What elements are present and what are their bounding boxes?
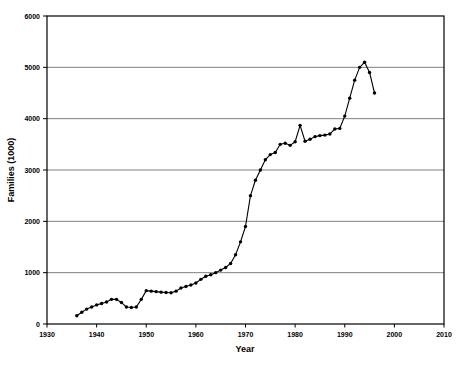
y-tick-label-3000: 3000 <box>24 167 40 174</box>
data-point-1953 <box>159 290 162 293</box>
data-point-1965 <box>219 268 222 271</box>
data-point-1972 <box>254 179 257 182</box>
data-point-1938 <box>85 307 88 310</box>
y-tick-label-2000: 2000 <box>24 218 40 225</box>
y-tick-label-5000: 5000 <box>24 64 40 71</box>
data-point-1977 <box>279 143 282 146</box>
y-axis-title: Families (1000) <box>6 138 16 203</box>
x-tick-label-1940: 1940 <box>89 331 105 338</box>
data-point-1948 <box>135 305 138 308</box>
data-point-1951 <box>150 289 153 292</box>
y-tick-label-4000: 4000 <box>24 115 40 122</box>
line-chart: 193019401950196019701980199020002010 010… <box>0 0 469 370</box>
data-point-1983 <box>308 138 311 141</box>
data-point-1956 <box>174 289 177 292</box>
data-point-1949 <box>140 298 143 301</box>
data-point-1969 <box>239 240 242 243</box>
data-point-1960 <box>194 281 197 284</box>
x-axis-title: Year <box>235 344 255 354</box>
x-tick-label-2000: 2000 <box>387 331 403 338</box>
data-point-1964 <box>214 271 217 274</box>
data-point-1976 <box>274 151 277 154</box>
data-point-1957 <box>179 286 182 289</box>
data-point-1962 <box>204 275 207 278</box>
data-point-1989 <box>338 127 341 130</box>
data-point-1985 <box>318 134 321 137</box>
data-point-1966 <box>224 266 227 269</box>
data-point-1992 <box>353 78 356 81</box>
x-axis-tick-labels: 193019401950196019701980199020002010 <box>39 331 452 338</box>
data-point-1974 <box>264 158 267 161</box>
y-tick-label-0: 0 <box>36 321 40 328</box>
x-tick-label-1980: 1980 <box>287 331 303 338</box>
data-point-1994 <box>363 61 366 64</box>
chart-container: 193019401950196019701980199020002010 010… <box>0 0 469 370</box>
data-point-1990 <box>343 114 346 117</box>
data-point-1981 <box>298 124 301 127</box>
data-point-1959 <box>189 283 192 286</box>
data-point-1941 <box>100 302 103 305</box>
data-point-1952 <box>154 290 157 293</box>
data-point-1973 <box>259 168 262 171</box>
data-point-1978 <box>284 142 287 145</box>
data-point-1955 <box>169 291 172 294</box>
data-point-1944 <box>115 298 118 301</box>
data-point-1939 <box>90 305 93 308</box>
data-point-1968 <box>234 253 237 256</box>
data-point-1943 <box>110 298 113 301</box>
data-point-1936 <box>75 314 78 317</box>
data-point-1947 <box>130 306 133 309</box>
x-tick-label-2010: 2010 <box>436 331 452 338</box>
data-point-1980 <box>293 140 296 143</box>
x-tick-label-1930: 1930 <box>39 331 55 338</box>
data-point-1991 <box>348 96 351 99</box>
data-point-1940 <box>95 303 98 306</box>
data-point-1945 <box>120 301 123 304</box>
data-point-1975 <box>269 153 272 156</box>
data-point-1950 <box>145 289 148 292</box>
data-point-1961 <box>199 278 202 281</box>
data-point-1963 <box>209 273 212 276</box>
data-point-1993 <box>358 66 361 69</box>
x-tick-label-1970: 1970 <box>238 331 254 338</box>
data-point-1958 <box>184 285 187 288</box>
data-point-1984 <box>313 135 316 138</box>
data-point-1995 <box>368 71 371 74</box>
chart-background <box>0 0 469 370</box>
x-tick-label-1960: 1960 <box>188 331 204 338</box>
data-point-1954 <box>164 291 167 294</box>
data-point-1942 <box>105 300 108 303</box>
data-point-1979 <box>288 144 291 147</box>
data-point-1987 <box>328 132 331 135</box>
data-point-1986 <box>323 133 326 136</box>
x-tick-label-1950: 1950 <box>138 331 154 338</box>
data-point-1996 <box>373 91 376 94</box>
data-point-1967 <box>229 262 232 265</box>
data-point-1982 <box>303 140 306 143</box>
y-tick-label-6000: 6000 <box>24 13 40 20</box>
data-point-1970 <box>244 225 247 228</box>
y-tick-label-1000: 1000 <box>24 269 40 276</box>
data-point-1971 <box>249 194 252 197</box>
x-tick-label-1990: 1990 <box>337 331 353 338</box>
data-point-1988 <box>333 127 336 130</box>
data-point-1937 <box>80 310 83 313</box>
data-point-1946 <box>125 305 128 308</box>
